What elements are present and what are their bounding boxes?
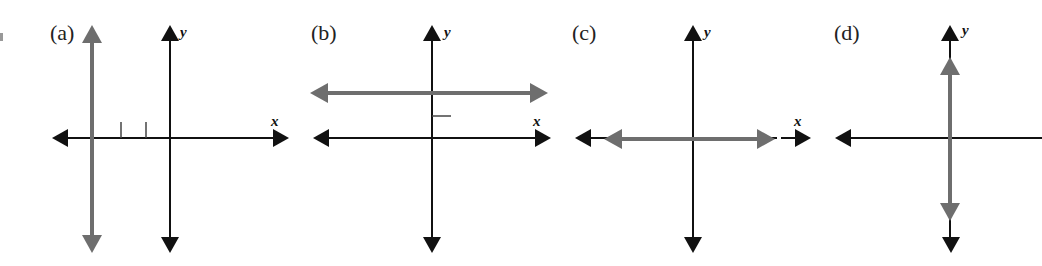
gray-arrow-down [940, 203, 960, 221]
figure-canvas [0, 0, 1042, 266]
panel-label-b: (b) [311, 20, 337, 46]
x-axis-arrow-left [52, 129, 68, 147]
panel-label-c: (c) [572, 20, 596, 46]
x-axis-arrow-left [313, 129, 329, 147]
y-axis-label-b: y [444, 24, 451, 41]
y-axis-label-c: y [704, 24, 711, 41]
gray-arrow-right [757, 129, 775, 149]
y-axis-arrow-up [423, 25, 441, 41]
panel-label-d: (d) [834, 20, 860, 46]
x-axis-label-b: x [533, 113, 541, 130]
y-axis-arrow-up [941, 25, 959, 41]
y-axis-arrow-up [161, 25, 179, 41]
panel-label-a: (a) [50, 20, 74, 46]
panel-d [835, 25, 1042, 253]
y-axis-arrow-down [942, 237, 960, 253]
gray-arrow-right [530, 83, 548, 103]
y-axis-arrow-down [423, 237, 441, 253]
y-axis-arrow-down [684, 237, 702, 253]
y-axis-arrow-up [684, 25, 702, 41]
y-axis-label-a: y [180, 24, 187, 41]
x-axis-arrow-right [795, 129, 811, 147]
x-axis-arrow-right [535, 129, 551, 147]
x-axis-label-c: x [794, 113, 802, 130]
gray-arrow-down [82, 235, 102, 253]
x-axis-arrow-left [575, 129, 591, 147]
panel-a [52, 25, 289, 253]
panel-c [575, 25, 811, 253]
gray-arrow-left [310, 83, 328, 103]
gray-arrow-up [82, 25, 102, 43]
x-axis-arrow-right [273, 129, 289, 147]
y-axis-arrow-down [161, 237, 179, 253]
panel-b [310, 25, 551, 253]
y-axis-label-d: y [962, 22, 969, 39]
gray-arrow-left [604, 129, 622, 149]
gray-arrow-up [940, 57, 960, 75]
x-axis-arrow-left [835, 129, 851, 147]
x-axis-label-a: x [271, 113, 279, 130]
